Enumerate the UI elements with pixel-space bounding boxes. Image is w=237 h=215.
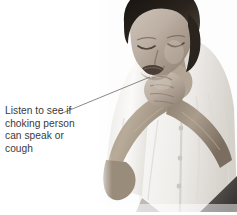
choking-person-photo: [96, 0, 237, 212]
caption-line-2: choking person: [5, 118, 91, 131]
choking-first-aid-figure: Listen to see if choking person can spea…: [0, 0, 237, 215]
caption-line-1: Listen to see if: [5, 105, 91, 118]
caption-line-3: can speak or: [5, 130, 91, 143]
caption-text: Listen to see if choking person can spea…: [5, 105, 91, 155]
caption-line-4: cough: [5, 143, 91, 156]
